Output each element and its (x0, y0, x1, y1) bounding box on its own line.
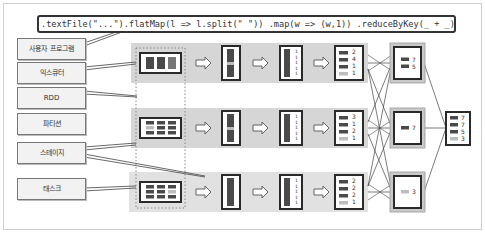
line-block (146, 121, 154, 125)
shuffle-line (368, 69, 392, 128)
line-block (157, 126, 165, 130)
line-block (146, 57, 154, 69)
label-task: 태스크 (17, 178, 86, 200)
key-count: 4 (352, 55, 356, 62)
key-count: 7 (412, 56, 416, 63)
line-block (146, 131, 154, 135)
key-count: 1 (352, 134, 356, 141)
word-block (227, 62, 234, 65)
key-block (339, 123, 348, 127)
pair-count: 1 (295, 66, 298, 71)
word-block (227, 178, 234, 206)
shuffle-line (368, 69, 392, 192)
key-block (401, 58, 409, 62)
line-block (157, 121, 165, 125)
key-count: 2 (352, 184, 356, 191)
key-block (339, 116, 348, 120)
line-block (168, 195, 176, 199)
pair-count: 1 (295, 60, 298, 65)
key-block (450, 137, 458, 141)
line-block (157, 190, 165, 194)
key-count: 2 (352, 127, 356, 134)
key-block (401, 126, 409, 130)
final-result: 7753 (446, 112, 470, 145)
key-count: 3 (461, 135, 465, 142)
shuffle-line (368, 134, 392, 192)
label-executor: 익스큐터 (17, 62, 86, 84)
key-count: 5 (412, 63, 416, 70)
key-block (339, 58, 348, 62)
line-block (168, 131, 176, 135)
shuffle-line (368, 128, 392, 186)
key-count: 3 (412, 188, 416, 195)
merge-line (424, 128, 446, 192)
key-count: 1 (352, 120, 356, 127)
word-block (227, 127, 234, 130)
label-stage: 스테이지 (17, 142, 86, 164)
pair-count: 1 (295, 55, 298, 60)
key-count: 3 (352, 113, 356, 120)
key-count: 1 (352, 62, 356, 69)
shuffle-partition-1: 75 (390, 43, 425, 83)
line-block (157, 131, 165, 135)
key-block (339, 72, 348, 76)
key-block (450, 123, 458, 127)
key-block (339, 137, 348, 141)
line-block (157, 57, 165, 69)
key-block (339, 194, 348, 198)
line-block (146, 190, 154, 194)
line-block (146, 126, 154, 130)
map-partition (280, 111, 302, 145)
pair-block (284, 114, 290, 142)
pair-count: 1 (295, 114, 298, 119)
pair-count: 1 (295, 189, 298, 194)
key-count: 5 (461, 128, 465, 135)
line-block (168, 57, 176, 69)
key-block (339, 187, 348, 191)
key-count: 1 (352, 69, 356, 76)
pair-block (284, 178, 290, 206)
map-partition (280, 46, 302, 80)
key-count: 2 (352, 177, 356, 184)
line-block (168, 121, 176, 125)
label-partition: 파티션 (17, 113, 86, 135)
key-count: 1 (352, 198, 356, 205)
pair-count: 1 (295, 131, 298, 136)
shuffle-partition-2: 7 (390, 108, 425, 148)
pair-count: 1 (295, 120, 298, 125)
key-block (401, 190, 409, 194)
key-block (450, 116, 458, 120)
line-block (157, 185, 165, 189)
key-block (339, 201, 348, 205)
pair-count: 1 (295, 136, 298, 141)
key-count: 7 (412, 124, 416, 131)
key-count: 2 (352, 191, 356, 198)
key-block (401, 65, 409, 69)
label-rdd: RDD (17, 87, 86, 109)
line-block (168, 185, 176, 189)
shuffle-partition-3: 3 (390, 172, 425, 212)
line-block (146, 195, 154, 199)
line-block (168, 126, 176, 130)
key-block (339, 65, 348, 69)
pair-count: 1 (295, 49, 298, 54)
key-block (450, 130, 458, 134)
key-count: 7 (461, 121, 465, 128)
key-count: 2 (352, 48, 356, 55)
line-block (157, 195, 165, 199)
line-block (168, 190, 176, 194)
line-block (146, 185, 154, 189)
key-count: 7 (461, 114, 465, 121)
merge-line (424, 63, 446, 128)
pair-count: 1 (295, 195, 298, 200)
shuffle-line (368, 63, 392, 186)
key-block (339, 130, 348, 134)
map-partition (280, 175, 302, 209)
label-user-program: 사용자 프로그램 (17, 38, 86, 60)
pair-count: 1 (295, 200, 298, 205)
pair-count: 1 (295, 71, 298, 76)
shuffle-line (368, 63, 392, 122)
shuffle-partition-box (394, 47, 421, 79)
key-block (339, 51, 348, 55)
pair-count: 1 (295, 125, 298, 130)
